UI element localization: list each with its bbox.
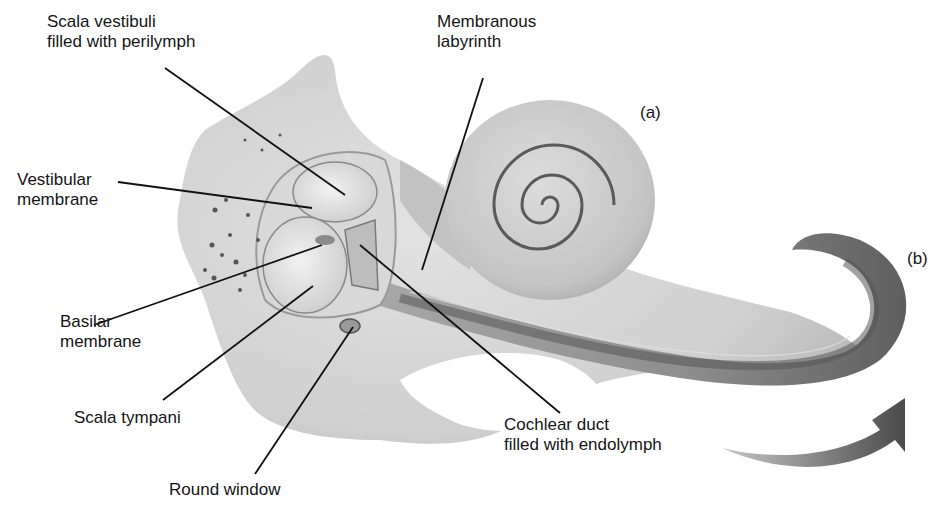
label-line: membrane <box>60 332 141 352</box>
label-line: Vestibular <box>17 170 98 190</box>
label-line: labyrinth <box>437 32 536 52</box>
label-line: Round window <box>169 480 281 500</box>
label-scala-vestibuli: Scala vestibuli filled with perilymph <box>47 12 195 52</box>
label-line: membrane <box>17 190 98 210</box>
cochlea-diagram: Scala vestibuli filled with perilymph Me… <box>0 0 951 508</box>
label-line: Cochlear duct <box>504 415 662 435</box>
label-line: filled with perilymph <box>47 32 195 52</box>
label-basilar-membrane: Basilar membrane <box>60 312 141 352</box>
label-line: Scala tympani <box>74 408 181 428</box>
label-line: Basilar <box>60 312 141 332</box>
cochlea-illustration <box>0 0 951 508</box>
label-round-window: Round window <box>169 480 281 500</box>
label-line: filled with endolymph <box>504 435 662 455</box>
label-line: Scala vestibuli <box>47 12 195 32</box>
panel-label-a: (a) <box>640 103 661 123</box>
direction-arrow <box>722 398 905 467</box>
label-membranous-labyrinth: Membranous labyrinth <box>437 12 536 52</box>
label-line: Membranous <box>437 12 536 32</box>
panel-label-b: (b) <box>907 249 928 269</box>
label-vestibular-membrane: Vestibular membrane <box>17 170 98 210</box>
label-scala-tympani: Scala tympani <box>74 408 181 428</box>
label-cochlear-duct: Cochlear duct filled with endolymph <box>504 415 662 455</box>
